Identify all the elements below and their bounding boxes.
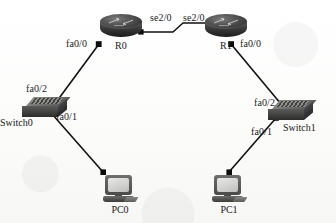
switch1-label: Switch1 (283, 122, 316, 133)
device-router-r0[interactable]: R0 (100, 14, 142, 42)
pc-keyboard (123, 197, 138, 202)
iface-label-r1-fa0-0: fa0/0 (240, 38, 261, 49)
router-r0-label: R0 (115, 40, 127, 51)
pc0-label: PC0 (111, 204, 128, 215)
switch-ports (276, 101, 309, 107)
switch-ports (30, 98, 63, 104)
pc1-label: PC1 (220, 204, 237, 215)
network-topology-canvas: R0 R1 Switch0 Switch1 PC0 (0, 0, 336, 223)
link-switch0-pc0 (52, 114, 103, 172)
device-pc-pc1[interactable]: PC1 (212, 175, 246, 209)
iface-label-switch1-fa0-1: fa0/1 (251, 126, 272, 137)
switch0-label: Switch0 (0, 117, 33, 128)
iface-label-switch0-fa0-2: fa0/2 (26, 83, 47, 94)
iface-label-r1-se2-0: se2/0 (183, 12, 205, 23)
router-arrows-icon (205, 14, 247, 29)
pc-screen (217, 178, 238, 192)
pc-keyboard (232, 197, 247, 202)
pc-screen (108, 178, 129, 192)
link-r1-switch1 (231, 44, 281, 104)
iface-label-r0-se2-0: se2/0 (150, 12, 172, 23)
iface-label-switch1-fa0-2: fa0/2 (254, 97, 275, 108)
switch-front-face (268, 109, 304, 120)
link-endpoint-r0-fa0-0 (96, 41, 102, 47)
switch-front-face (22, 106, 58, 117)
router-arrows-icon (100, 14, 142, 29)
router-r1-label: R1 (220, 40, 232, 51)
device-pc-pc0[interactable]: PC0 (103, 175, 137, 209)
iface-label-switch0-fa0-1: fa0/1 (56, 111, 77, 122)
iface-label-r0-fa0-0: fa0/0 (66, 38, 87, 49)
link-r0-switch0 (57, 44, 99, 101)
